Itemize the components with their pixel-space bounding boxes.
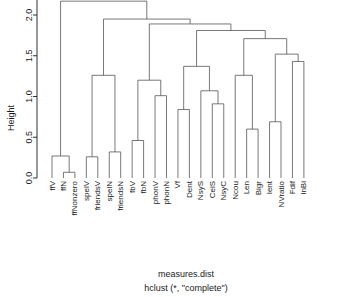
leaf-label: ffN (59, 181, 68, 191)
leaf-label: Ient (265, 180, 274, 194)
y-axis-tick-label: 2.0 (24, 9, 34, 22)
dendrogram-branch (155, 96, 166, 178)
leaf-label: Vf (173, 180, 182, 188)
dendrogram-branch (197, 30, 266, 66)
leaf-label: NsyC (219, 181, 228, 201)
leaf-label: friendsN (116, 181, 125, 211)
dendrogram-branch (270, 122, 281, 178)
dendrogram-branch (138, 80, 161, 140)
dendrogram-branch (149, 24, 231, 80)
dendrogram-branch (235, 75, 252, 178)
leaf-label: phonV (151, 180, 160, 204)
leaf-label: ffNonzero (70, 180, 79, 215)
leaf-label: NVratio (277, 180, 286, 207)
dendrogram-branch (292, 61, 303, 178)
dendrogram-branch (109, 152, 120, 178)
dendrogram-branch (104, 19, 191, 75)
leaf-label: phonN (162, 181, 171, 205)
dendrogram-branch (212, 104, 223, 178)
leaf-label: fbV (128, 180, 137, 193)
y-axis-title-text: Height (6, 104, 16, 131)
y-axis-title: Height (6, 104, 16, 131)
leaf-label: fbN (139, 181, 148, 194)
y-axis: 0.00.51.01.52.0 (24, 0, 37, 184)
dendrogram-canvas: 0.00.51.01.52.0 ffVffNffNonzerospelVfrie… (0, 0, 340, 297)
leaf-labels: ffVffNffNonzerospelVfriendsVspelNfriends… (48, 180, 309, 215)
leaf-label: InBi (299, 181, 308, 195)
leaf-label: spelN (105, 181, 114, 202)
leaf-label: Bigr (254, 181, 263, 196)
y-axis-tick-label: 0.0 (24, 172, 34, 185)
dendrogram-branch (178, 110, 189, 178)
leaf-label: ffV (48, 180, 57, 190)
dendrogram-branch (63, 172, 74, 178)
dendrogram-branch (92, 75, 115, 157)
leaf-label: friendsV (93, 180, 102, 210)
leaf-label: Fdif (288, 180, 297, 194)
plot-caption: measures.disthclust (*, "complete") (144, 269, 227, 293)
y-axis-tick-label: 1.5 (24, 49, 34, 62)
caption-line-2: hclust (*, "complete") (144, 283, 227, 293)
dendrogram-branch (275, 54, 298, 122)
leaf-label: Ncou (231, 181, 240, 200)
dendrogram-branches (52, 1, 304, 178)
dendrogram-branch (52, 156, 69, 178)
dendrogram-branch (244, 39, 287, 76)
y-axis-tick-label: 1.0 (24, 90, 34, 103)
leaf-label: Len (242, 181, 251, 194)
leaf-label: Dent (185, 180, 194, 198)
caption-line-1: measures.dist (158, 269, 215, 279)
dendrogram-branch (86, 157, 97, 178)
y-axis-tick-label: 0.5 (24, 131, 34, 144)
dendrogram-branch (132, 141, 143, 178)
leaf-label: NsyS (196, 181, 205, 200)
dendrogram-branch (184, 66, 210, 109)
leaf-label: CelS (208, 181, 217, 198)
dendrogram-branch (247, 129, 258, 178)
cluster-dendrogram-plot: 0.00.51.01.52.0 ffVffNffNonzerospelVfrie… (0, 0, 340, 297)
leaf-label: spelV (82, 180, 91, 201)
